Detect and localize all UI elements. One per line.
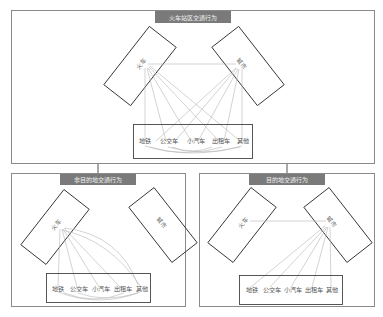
mode-taxi: 出租车 xyxy=(212,137,230,145)
mode-bus: 公交车 xyxy=(263,286,281,294)
mode-other: 其他 xyxy=(237,137,249,145)
mode-bus: 公交车 xyxy=(70,285,88,293)
mode-car: 小汽车 xyxy=(92,285,110,293)
mode-car: 小汽车 xyxy=(284,286,302,294)
mode-bus: 公交车 xyxy=(160,137,178,145)
mode-taxi: 出租车 xyxy=(114,285,132,293)
mode-other: 其他 xyxy=(136,285,148,293)
panel-non-destination: 非目的地交通行为 火车 城市 地铁 公交车 小汽车 出租车 其他 xyxy=(12,174,198,307)
panel-train-station-area: 火车站区交通行为 火车 城市 xyxy=(12,11,375,164)
panel-connectors xyxy=(98,164,287,173)
diagram-canvas: 火车站区交通行为 火车 城市 xyxy=(0,0,383,317)
panel-title: 非目的地交通行为 xyxy=(74,176,122,184)
panel-title: 目的地交通行为 xyxy=(266,176,308,184)
mode-car: 小汽车 xyxy=(187,137,205,145)
mode-other: 其他 xyxy=(326,286,338,294)
mode-taxi: 出租车 xyxy=(305,286,323,294)
mode-subway: 地铁 xyxy=(246,286,258,294)
panel-destination: 目的地交通行为 火车 城市 地铁 公交车 小汽车 出租车 其他 xyxy=(200,174,375,307)
panel-title: 火车站区交通行为 xyxy=(169,14,217,22)
mode-subway: 地铁 xyxy=(52,285,64,293)
mode-subway: 地铁 xyxy=(139,137,151,145)
